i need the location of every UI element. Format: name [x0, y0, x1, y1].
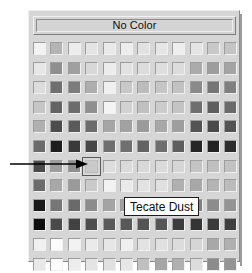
swatch-r6-c5[interactable]: [102, 139, 117, 154]
swatch-r1-c5[interactable]: [102, 41, 117, 56]
swatch-r3-c2[interactable]: [49, 80, 64, 95]
swatch-r7-c12[interactable]: [223, 159, 238, 174]
swatch-r4-c2[interactable]: [49, 100, 64, 115]
swatch-r11-c7[interactable]: [136, 237, 151, 252]
swatch-r1-c6[interactable]: [119, 41, 134, 56]
swatch-r11-c11[interactable]: [206, 237, 221, 252]
swatch-r11-c1[interactable]: [32, 237, 47, 252]
swatch-r8-c6[interactable]: [119, 178, 134, 193]
swatch-r2-c5[interactable]: [102, 61, 117, 76]
swatch-r10-c6[interactable]: [119, 217, 134, 232]
swatch-r1-c9[interactable]: [171, 41, 186, 56]
swatch-r4-c1[interactable]: [32, 100, 47, 115]
swatch-r12-c8[interactable]: [154, 257, 169, 272]
swatch-r7-c6[interactable]: [119, 159, 134, 174]
swatch-r6-c1[interactable]: [32, 139, 47, 154]
swatch-r7-c11[interactable]: [206, 159, 221, 174]
swatch-r1-c11[interactable]: [206, 41, 221, 56]
swatch-r11-c6[interactable]: [119, 237, 134, 252]
swatch-r5-c6[interactable]: [119, 119, 134, 134]
swatch-r6-c4[interactable]: [84, 139, 99, 154]
swatch-r7-c10[interactable]: [189, 159, 204, 174]
swatch-r4-c7[interactable]: [136, 100, 151, 115]
swatch-r9-c12[interactable]: [223, 198, 238, 213]
swatch-r1-c10[interactable]: [189, 41, 204, 56]
swatch-r3-c11[interactable]: [206, 80, 221, 95]
swatch-r9-c11[interactable]: [206, 198, 221, 213]
swatch-r3-c4[interactable]: [84, 80, 99, 95]
swatch-r1-c8[interactable]: [154, 41, 169, 56]
swatch-r2-c3[interactable]: [67, 61, 82, 76]
swatch-r5-c11[interactable]: [206, 119, 221, 134]
swatch-r6-c6[interactable]: [119, 139, 134, 154]
swatch-r1-c2[interactable]: [49, 41, 64, 56]
swatch-r4-c10[interactable]: [189, 100, 204, 115]
swatch-r5-c10[interactable]: [189, 119, 204, 134]
swatch-r2-c9[interactable]: [171, 61, 186, 76]
swatch-r5-c12[interactable]: [223, 119, 238, 134]
swatch-r1-c1[interactable]: [32, 41, 47, 56]
swatch-r9-c1[interactable]: [32, 198, 47, 213]
swatch-r3-c8[interactable]: [154, 80, 169, 95]
swatch-r2-c10[interactable]: [189, 61, 204, 76]
swatch-r6-c11[interactable]: [206, 139, 221, 154]
swatch-r11-c9[interactable]: [171, 237, 186, 252]
swatch-r11-c3[interactable]: [67, 237, 82, 252]
swatch-r4-c3[interactable]: [67, 100, 82, 115]
swatch-r8-c12[interactable]: [223, 178, 238, 193]
swatch-r10-c12[interactable]: [223, 217, 238, 232]
swatch-r2-c2[interactable]: [49, 61, 64, 76]
swatch-r4-c12[interactable]: [223, 100, 238, 115]
swatch-r5-c5[interactable]: [102, 119, 117, 134]
swatch-r10-c3[interactable]: [67, 217, 82, 232]
swatch-r12-c3[interactable]: [67, 257, 82, 272]
swatch-r5-c2[interactable]: [49, 119, 64, 134]
swatch-r6-c2[interactable]: [49, 139, 64, 154]
swatch-r2-c4[interactable]: [84, 61, 99, 76]
swatch-r6-c7[interactable]: [136, 139, 151, 154]
swatch-r12-c7[interactable]: [136, 257, 151, 272]
swatch-r4-c9[interactable]: [171, 100, 186, 115]
swatch-r12-c12[interactable]: [223, 257, 238, 272]
swatch-r5-c4[interactable]: [84, 119, 99, 134]
swatch-r9-c3[interactable]: [67, 198, 82, 213]
swatch-r3-c6[interactable]: [119, 80, 134, 95]
swatch-r2-c6[interactable]: [119, 61, 134, 76]
swatch-r2-c12[interactable]: [223, 61, 238, 76]
swatch-r12-c11[interactable]: [206, 257, 221, 272]
swatch-r4-c5[interactable]: [102, 100, 117, 115]
swatch-r1-c7[interactable]: [136, 41, 151, 56]
no-color-button[interactable]: No Color: [33, 16, 236, 35]
swatch-r8-c7[interactable]: [136, 178, 151, 193]
swatch-r10-c7[interactable]: [136, 217, 151, 232]
swatch-r11-c5[interactable]: [102, 237, 117, 252]
swatch-r5-c3[interactable]: [67, 119, 82, 134]
swatch-r9-c5[interactable]: [102, 198, 117, 213]
swatch-r12-c9[interactable]: [171, 257, 186, 272]
swatch-r2-c1[interactable]: [32, 61, 47, 76]
swatch-r3-c12[interactable]: [223, 80, 238, 95]
swatch-r3-c10[interactable]: [189, 80, 204, 95]
swatch-r5-c7[interactable]: [136, 119, 151, 134]
swatch-r12-c2[interactable]: [49, 257, 64, 272]
swatch-r10-c2[interactable]: [49, 217, 64, 232]
swatch-r3-c1[interactable]: [32, 80, 47, 95]
swatch-r9-c4[interactable]: [84, 198, 99, 213]
swatch-r11-c2[interactable]: [49, 237, 64, 252]
swatch-r11-c4[interactable]: [84, 237, 99, 252]
swatch-r12-c10[interactable]: [189, 257, 204, 272]
swatch-r2-c11[interactable]: [206, 61, 221, 76]
swatch-r8-c8[interactable]: [154, 178, 169, 193]
swatch-r4-c8[interactable]: [154, 100, 169, 115]
swatch-r4-c4[interactable]: [84, 100, 99, 115]
swatch-r8-c2[interactable]: [49, 178, 64, 193]
swatch-r6-c3[interactable]: [67, 139, 82, 154]
swatch-r8-c11[interactable]: [206, 178, 221, 193]
swatch-r10-c8[interactable]: [154, 217, 169, 232]
swatch-r10-c10[interactable]: [189, 217, 204, 232]
swatch-r4-c6[interactable]: [119, 100, 134, 115]
swatch-r1-c3[interactable]: [67, 41, 82, 56]
swatch-r8-c3[interactable]: [67, 178, 82, 193]
swatch-r10-c11[interactable]: [206, 217, 221, 232]
swatch-r7-c5[interactable]: [102, 159, 117, 174]
